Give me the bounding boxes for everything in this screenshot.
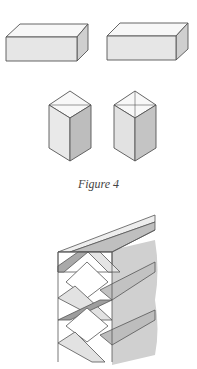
horizontal-block-right <box>107 23 188 60</box>
vertical-prism-right <box>114 91 156 161</box>
stacked-lattice <box>58 215 158 365</box>
horizontal-block-left <box>6 24 88 61</box>
vertical-prism-left <box>49 91 91 161</box>
figure-caption: Figure 4 <box>0 177 197 192</box>
